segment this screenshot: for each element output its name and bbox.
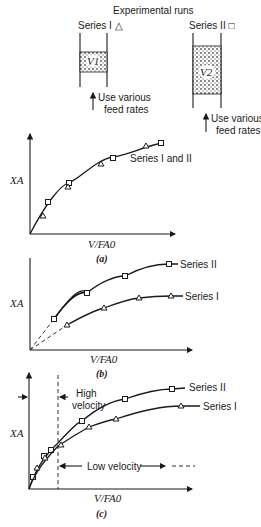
- series2-label-b: Series II: [180, 259, 217, 270]
- series2-label-c: Series II: [189, 382, 226, 393]
- ylabel-a: XA: [9, 174, 24, 186]
- ylabel-b: XA: [9, 297, 24, 309]
- xlabel-b: V/FA0: [90, 353, 118, 365]
- panel-a: XA V/FA0 (a) Series I and II: [9, 134, 192, 265]
- panel-c: High velocity Low velocity XA V/FA0 (c) …: [9, 373, 237, 520]
- low-velocity-label: Low velocity: [87, 461, 141, 472]
- series2-label: Series II □: [189, 20, 235, 31]
- feed-note-1-line1: Use various: [98, 92, 151, 103]
- ylabel-c: XA: [9, 427, 24, 439]
- series-label-a: Series I and II: [130, 153, 192, 164]
- feed-note-1-line2: feed rates: [104, 104, 148, 115]
- reactor-2: V2 Use various feed rates: [193, 33, 261, 136]
- caption-b: (b): [96, 368, 108, 380]
- experimental-runs-header: Experimental runs Series I △ Series II □: [78, 5, 235, 31]
- xlabel-a: V/FA0: [88, 238, 116, 250]
- xlabel-c: V/FA0: [94, 492, 122, 504]
- reactor2-label: V2: [200, 66, 213, 78]
- series1-label: Series I △: [78, 20, 123, 31]
- high-velocity-line1: High: [76, 388, 97, 399]
- caption-a: (a): [96, 253, 108, 265]
- reactor1-label: V1: [87, 55, 99, 67]
- figure-canvas: Experimental runs Series I △ Series II □…: [0, 0, 261, 527]
- series1-label-b: Series I: [185, 291, 219, 302]
- feed-note-2-line2: feed rates: [216, 125, 260, 136]
- high-velocity-line2: velocity: [72, 400, 105, 411]
- series1-label-c: Series I: [203, 401, 237, 412]
- reactor-1: V1 Use various feed rates: [80, 33, 151, 115]
- caption-c: (c): [96, 508, 107, 520]
- header-title: Experimental runs: [113, 5, 194, 16]
- panel-b: XA V/FA0 (b) Series II Series I: [9, 258, 219, 380]
- feed-note-2-line1: Use various: [211, 113, 261, 124]
